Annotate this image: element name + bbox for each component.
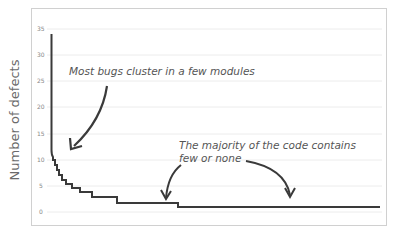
arrow-most-bugs bbox=[74, 86, 107, 146]
defect-step-line bbox=[52, 34, 381, 207]
arrow-tail bbox=[246, 161, 290, 195]
arrow-plateau bbox=[166, 165, 181, 198]
y-tick-20: 20 bbox=[37, 103, 45, 110]
y-tick-0: 0 bbox=[39, 208, 43, 215]
y-tick-35: 35 bbox=[37, 25, 45, 32]
y-tick-labels: 35 30 25 20 15 10 5 0 bbox=[37, 25, 45, 215]
annotation-majority-line1: The majority of the code contains bbox=[179, 139, 356, 151]
gridlines bbox=[47, 29, 382, 212]
y-tick-25: 25 bbox=[37, 77, 45, 84]
y-tick-10: 10 bbox=[37, 156, 45, 163]
y-tick-30: 30 bbox=[37, 51, 45, 58]
annotation-most-bugs: Most bugs cluster in a few modules bbox=[69, 65, 255, 77]
annotation-majority-line2: few or none bbox=[179, 152, 241, 164]
chart-canvas: 35 30 25 20 15 10 5 0 Most bugs cluster … bbox=[0, 0, 393, 238]
y-tick-15: 15 bbox=[37, 130, 45, 137]
y-tick-5: 5 bbox=[39, 182, 43, 189]
